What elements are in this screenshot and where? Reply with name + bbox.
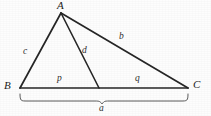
segment-label-b: b xyxy=(119,32,124,42)
geometry-figure: A B C c b d p q a xyxy=(0,0,211,116)
segment-label-p: p xyxy=(57,74,62,84)
segment-label-q: q xyxy=(135,74,140,84)
base-brace-path xyxy=(20,94,188,104)
vertex-label-a: A xyxy=(57,0,64,11)
vertex-label-c: C xyxy=(193,79,200,90)
segment-label-d: d xyxy=(82,46,87,56)
vertex-label-b: B xyxy=(4,80,11,91)
brace-label-a: a xyxy=(99,104,104,114)
segment-label-c: c xyxy=(23,47,27,57)
triangle-diagram-svg xyxy=(0,0,211,116)
